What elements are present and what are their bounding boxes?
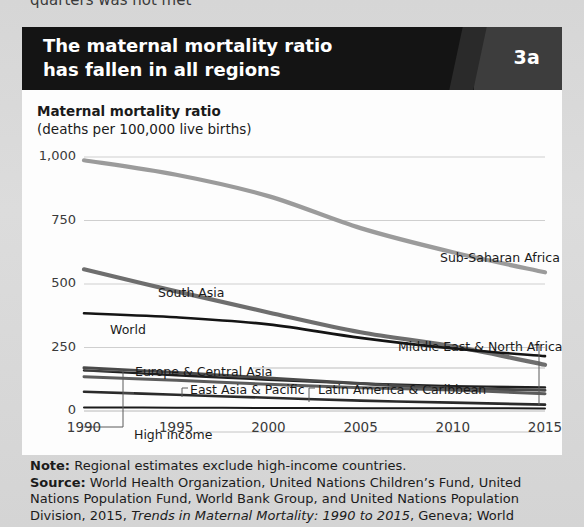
y-tick-label: 1,000 bbox=[30, 148, 76, 163]
series-line-high-income bbox=[84, 407, 545, 408]
x-tick-label: 2000 bbox=[238, 419, 298, 435]
source-publication-title: Trends in Maternal Mortality: 1990 to 20… bbox=[131, 508, 410, 523]
y-tick-label: 0 bbox=[30, 402, 76, 417]
series-label-europe-central-asia: Europe & Central Asia bbox=[135, 364, 272, 379]
source-line-2: Nations Population Fund, World Bank Grou… bbox=[30, 491, 560, 508]
source-line-1: Source: World Health Organization, Unite… bbox=[30, 475, 560, 492]
source-text-3b: , Geneva; World bbox=[410, 508, 514, 523]
figure-card: The maternal mortality ratio has fallen … bbox=[22, 27, 562, 455]
x-tick-label: 2005 bbox=[331, 419, 391, 435]
series-label-east-asia-pacific: East Asia & Pacific bbox=[190, 382, 305, 397]
series-label-high-income: High income bbox=[134, 427, 213, 442]
note-label: Note: bbox=[30, 458, 70, 473]
y-tick-label: 500 bbox=[30, 275, 76, 290]
x-tick-label: 2010 bbox=[423, 419, 483, 435]
series-label-south-asia: South Asia bbox=[158, 285, 225, 300]
note-text: Regional estimates exclude high-income c… bbox=[70, 458, 406, 473]
series-label-middle-east-north-africa: Middle East & North Africa bbox=[398, 339, 563, 354]
x-tick-label: 2015 bbox=[515, 419, 575, 435]
series-label-latin-america-caribbean: Latin America & Caribbean bbox=[318, 382, 486, 397]
series-label-world: World bbox=[110, 322, 146, 337]
source-text-3a: Division, 2015, bbox=[30, 508, 131, 523]
y-tick-label: 250 bbox=[30, 339, 76, 354]
cutoff-body-text: quarters was not met bbox=[30, 0, 430, 13]
source-text-1: World Health Organization, United Nation… bbox=[86, 475, 522, 490]
source-label: Source: bbox=[30, 475, 86, 490]
chart-plot-area: 02505007501,000199019952000200520102015 … bbox=[22, 27, 562, 455]
x-tick-label: 1990 bbox=[54, 419, 114, 435]
source-line-3: Division, 2015, Trends in Maternal Morta… bbox=[30, 508, 560, 525]
figure-footnotes: Note: Regional estimates exclude high-in… bbox=[30, 458, 560, 524]
series-label-sub-saharan-africa: Sub-Saharan Africa bbox=[440, 250, 560, 265]
y-tick-label: 750 bbox=[30, 212, 76, 227]
note-line: Note: Regional estimates exclude high-in… bbox=[30, 458, 560, 475]
